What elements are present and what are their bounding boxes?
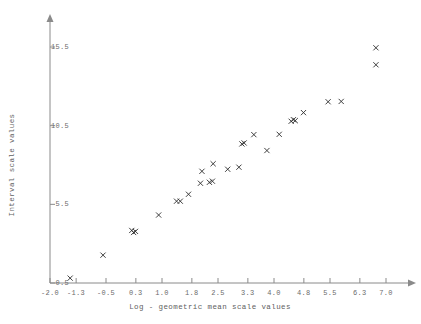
axes-group xyxy=(47,14,417,287)
data-point-marker xyxy=(198,181,203,186)
data-point-marker xyxy=(301,110,306,115)
x-axis-tick-label: 6.3 xyxy=(353,289,367,297)
x-axis-tick-label: 0.3 xyxy=(129,289,143,297)
y-axis-arrow-icon xyxy=(47,14,54,22)
x-axis-tick-label: 2.5 xyxy=(211,289,225,297)
data-point-marker xyxy=(133,229,138,234)
x-axis-title: Log - geometric mean scale values xyxy=(129,303,291,311)
data-point-marker xyxy=(186,192,191,197)
data-point-marker xyxy=(251,132,256,137)
data-point-marker xyxy=(100,253,105,258)
data-point-marker xyxy=(199,169,204,174)
data-point-marker xyxy=(277,132,282,137)
y-axis-tick-label: 0.5 xyxy=(43,279,69,287)
data-point-marker xyxy=(264,148,269,153)
x-axis-tick-label: 7.0 xyxy=(379,289,393,297)
y-axis-tick-label: 5.5 xyxy=(43,200,69,208)
data-point-marker xyxy=(373,45,378,50)
x-axis-tick-label: 1.8 xyxy=(185,289,199,297)
data-point-marker xyxy=(326,99,331,104)
y-axis-tick-label: 15.5 xyxy=(43,43,69,51)
y-axis-tick-label: 10.5 xyxy=(43,122,69,130)
data-point-marker xyxy=(293,118,298,123)
x-axis-tick-label: -0.5 xyxy=(97,289,115,297)
x-axis-tick-label: 4.8 xyxy=(297,289,311,297)
x-axis-tick-marks xyxy=(50,278,386,283)
x-axis-arrow-icon xyxy=(408,280,416,287)
data-point-marker xyxy=(225,167,230,172)
x-axis-tick-label: -2.0 xyxy=(41,289,59,297)
x-axis-tick-label: 5.5 xyxy=(323,289,337,297)
x-axis-tick-label: 3.3 xyxy=(241,289,255,297)
data-point-markers xyxy=(68,45,379,281)
y-axis-title: Interval scale values xyxy=(8,114,16,217)
x-axis-tick-label: -1.3 xyxy=(67,289,85,297)
x-axis-tick-label: 4.0 xyxy=(267,289,281,297)
data-point-marker xyxy=(339,99,344,104)
data-point-marker xyxy=(211,161,216,166)
data-point-marker xyxy=(178,199,183,204)
data-point-marker xyxy=(156,212,161,217)
data-point-marker xyxy=(236,165,241,170)
scatter-plot-figure: -2.0-1.3-0.50.31.01.82.53.34.04.85.56.37… xyxy=(0,0,421,324)
y-axis-tick-marks xyxy=(50,47,55,283)
data-point-marker xyxy=(131,230,136,235)
x-axis-tick-label: 1.0 xyxy=(155,289,169,297)
data-point-marker xyxy=(373,62,378,67)
data-point-marker xyxy=(291,117,296,122)
